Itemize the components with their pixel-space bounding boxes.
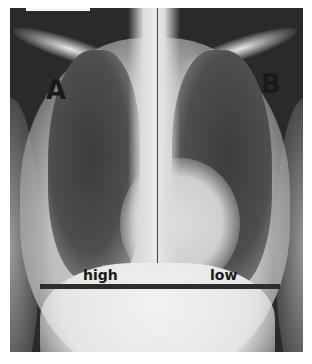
abdomen: [40, 263, 275, 352]
chest-xray-image: [10, 8, 303, 352]
diaphragm-reference-line: [40, 284, 280, 289]
film-edge-strip: [26, 8, 90, 11]
label-a: A: [46, 77, 66, 103]
label-high: high: [83, 268, 118, 282]
vertical-line-marker: [157, 8, 158, 278]
label-b: B: [261, 71, 281, 97]
label-low: low: [210, 268, 237, 282]
